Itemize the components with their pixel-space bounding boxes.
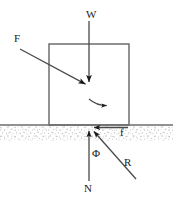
normal-label: N [84, 182, 92, 194]
ground-hatching-overlay [0, 126, 173, 141]
ground-region [0, 125, 173, 141]
angle-label: Φ [92, 147, 100, 159]
angle-arc [89, 99, 107, 106]
applied-force-label: F [14, 32, 20, 44]
weight-vector: W [86, 8, 97, 82]
free-body-diagram-figure: W F f N R Φ [0, 0, 173, 202]
friction-label: f [120, 126, 124, 138]
applied-force-arrow [20, 49, 85, 84]
reaction-label: R [124, 156, 132, 168]
diagram-canvas: W F f N R Φ [0, 0, 173, 202]
weight-label: W [86, 8, 97, 20]
